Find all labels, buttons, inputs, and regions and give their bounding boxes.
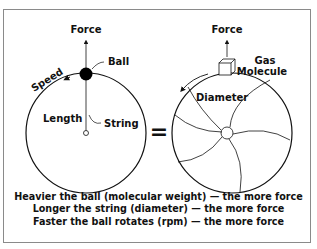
hub-icon (221, 127, 233, 139)
diameter-label: Diameter (196, 92, 248, 103)
rotation-arrow-icon (182, 74, 208, 90)
length-label: Length (43, 113, 82, 124)
force-label-right: Force (212, 24, 243, 35)
caption-line-3: Faster the ball rotates (rpm) — the more… (0, 216, 317, 228)
string-label: String (104, 118, 139, 129)
turbine-impeller-diagram: Force Gas Molecule Diameter (172, 24, 292, 193)
ball-icon (80, 68, 93, 81)
vane (178, 137, 222, 162)
vane (233, 131, 290, 140)
caption: Heavier the ball (molecular weight) — th… (0, 191, 317, 228)
ball-label: Ball (108, 56, 129, 67)
caption-line-2: Longer the string (diameter) — the more … (0, 203, 317, 215)
gas-label: Gas (255, 55, 276, 66)
speed-arrow-icon (66, 77, 70, 79)
caption-line-1: Heavier the ball (molecular weight) — th… (0, 191, 317, 203)
molecule-label: Molecule (237, 66, 288, 77)
vane (230, 80, 270, 127)
string-leader-line (89, 115, 101, 123)
force-label-left: Force (71, 24, 102, 35)
ball-on-string-diagram: Force Ball Speed Length String (26, 24, 146, 193)
vane (229, 139, 241, 192)
pivot-icon (84, 131, 89, 136)
ball-leader-line (92, 62, 104, 69)
equals-sign: = (150, 119, 168, 144)
